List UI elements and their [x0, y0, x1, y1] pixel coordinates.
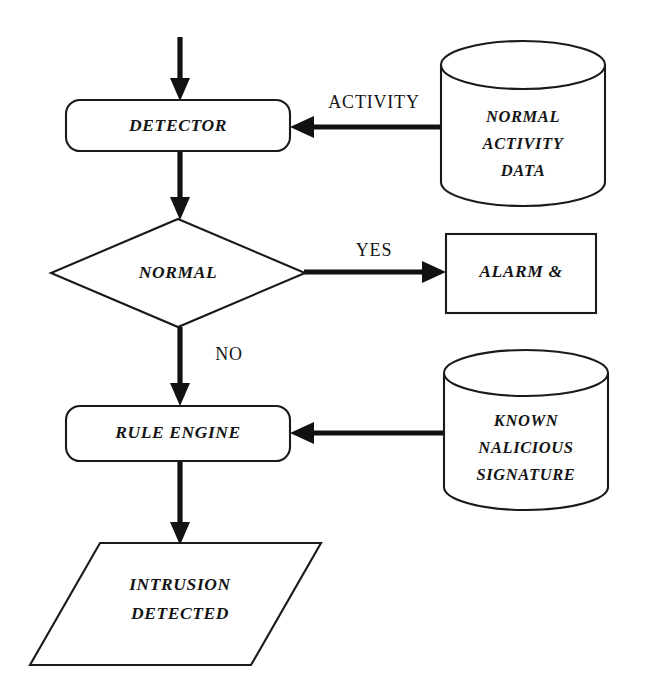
rule-intrusion-arrow-head-icon — [170, 522, 190, 545]
edge-label-yes: YES — [356, 240, 392, 260]
edge-signature-to-rule-engine — [290, 422, 445, 444]
edge-rule-engine-to-intrusion — [170, 461, 190, 545]
intrusion-detected-label-line1: INTRUSION — [128, 574, 231, 594]
edge-activity — [290, 116, 442, 138]
normal-activity-data-label-line2: ACTIVITY — [482, 134, 565, 153]
activity-arrow-head-icon — [290, 116, 314, 138]
edge-label-activity: ACTIVITY — [328, 92, 419, 112]
known-malicious-signature-cylinder-top — [444, 350, 608, 396]
detector-decision-arrow-head-icon — [170, 197, 190, 220]
normal-activity-data-cylinder-top — [441, 41, 605, 89]
edge-entry-to-detector — [170, 37, 190, 101]
edge-detector-to-decision — [170, 151, 190, 220]
flowchart-diagram: DETECTOR NORMAL ALARM & RULE ENGINE INTR… — [0, 0, 647, 695]
known-malicious-signature-label-line3: SIGNATURE — [477, 465, 576, 484]
signature-arrow-head-icon — [290, 422, 314, 444]
normal-decision-label: NORMAL — [138, 262, 217, 282]
edge-label-no: NO — [215, 344, 243, 364]
rule-engine-label: RULE ENGINE — [114, 422, 241, 442]
normal-activity-data-label-line3: DATA — [500, 161, 546, 180]
no-arrow-head-icon — [170, 383, 190, 406]
intrusion-detected-label-line2: DETECTED — [130, 603, 229, 623]
node-known-malicious-signature[interactable]: KNOWN NALICIOUS SIGNATURE — [444, 350, 608, 510]
node-normal-activity-data[interactable]: NORMAL ACTIVITY DATA — [441, 41, 605, 206]
known-malicious-signature-label-line1: KNOWN — [493, 411, 559, 430]
node-rule-engine[interactable]: RULE ENGINE — [66, 406, 290, 461]
edge-no — [170, 327, 190, 406]
known-malicious-signature-label-line2: NALICIOUS — [477, 438, 573, 457]
node-normal-decision[interactable]: NORMAL — [51, 219, 305, 327]
flowchart-canvas: DETECTOR NORMAL ALARM & RULE ENGINE INTR… — [0, 0, 647, 695]
yes-arrow-head-icon — [422, 261, 446, 283]
edge-yes — [304, 261, 446, 283]
detector-label: DETECTOR — [128, 115, 227, 135]
node-intrusion-detected[interactable]: INTRUSION DETECTED — [30, 543, 321, 665]
node-detector[interactable]: DETECTOR — [66, 100, 290, 151]
entry-arrow-head-icon — [170, 78, 190, 101]
alarm-label: ALARM & — [478, 261, 562, 281]
normal-activity-data-label-line1: NORMAL — [485, 107, 560, 126]
node-alarm[interactable]: ALARM & — [446, 234, 596, 313]
